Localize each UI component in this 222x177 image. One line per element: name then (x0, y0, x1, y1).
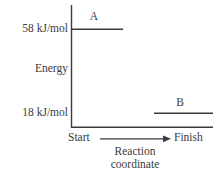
x-axis-start-label: Start (68, 132, 90, 144)
energy-level-a-label: A (86, 11, 102, 23)
x-axis-title: Reaction coordinate (85, 145, 185, 171)
y-axis-tick-label-bottom: 18 kJ/mol (22, 107, 68, 119)
x-axis-title-line1: Reaction (115, 145, 156, 157)
energy-level-b-label: B (172, 97, 188, 109)
energy-diagram: 58 kJ/mol Energy 18 kJ/mol A B Start Fin… (0, 0, 222, 177)
x-axis-finish-label: Finish (174, 132, 203, 144)
y-axis-title: Energy (35, 63, 68, 75)
reaction-direction-arrow-icon (100, 135, 171, 142)
y-axis-tick-label-top: 58 kJ/mol (22, 23, 68, 35)
x-axis-title-line2: coordinate (111, 158, 160, 170)
